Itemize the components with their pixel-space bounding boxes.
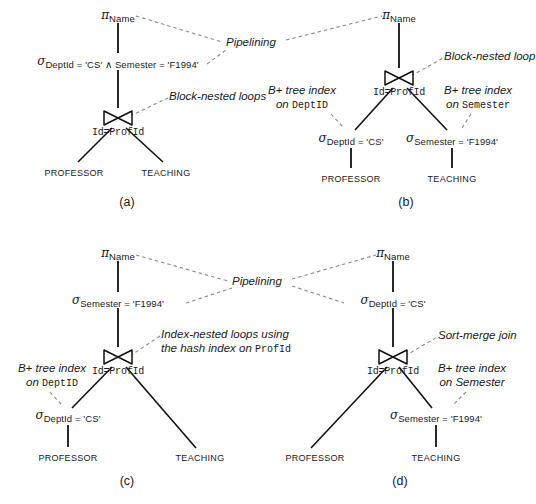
- panel-b-right-select-subscript: Semester = 'F1994': [414, 136, 498, 147]
- panel-d-right-index-annotation: B+ tree index on Semester: [438, 362, 506, 389]
- panel-d-select-top-node: σDeptId = 'CS': [360, 294, 425, 306]
- sigma-symbol: σ: [318, 131, 326, 145]
- pi-symbol: π: [101, 246, 109, 260]
- query-plan-figure: πName σDeptId = 'CS' ∧ Semester = 'F1994…: [0, 0, 536, 504]
- panel-d-right-select-node: σSemester = 'F1994': [390, 409, 482, 421]
- panel-b-right-index-line1: B+ tree index: [444, 84, 512, 98]
- panel-c-select-top-node: σSemester = 'F1994': [72, 294, 164, 306]
- panel-b-join-annotation: Block-nested loops: [444, 50, 532, 64]
- pi-symbol: π: [101, 8, 109, 22]
- panel-d-join-predicate: Id=ProfId: [367, 367, 419, 377]
- panel-b-left-select-node: σDeptId = 'CS': [318, 132, 383, 144]
- join-symbol-b: [385, 71, 413, 85]
- panel-b-left-index-line2: on DeptID: [268, 98, 336, 113]
- panel-b-left-index-annotation: B+ tree index on DeptID: [268, 84, 336, 112]
- panel-b-right-index-column: Semester: [462, 100, 510, 111]
- panel-c-left-select-node: σDeptId = 'CS': [35, 409, 100, 421]
- panel-d-project-subscript: Name: [384, 251, 410, 262]
- plan-edges: [0, 0, 536, 504]
- panel-b-right-index-line2: on Semester: [444, 98, 512, 113]
- panel-d-select-top-subscript: DeptId = 'CS': [369, 298, 426, 309]
- panel-c-select-top-subscript: Semester = 'F1994': [80, 298, 164, 309]
- panel-d-right-relation: TEACHING: [412, 451, 461, 464]
- sigma-symbol: σ: [35, 408, 43, 422]
- panel-c-join-annotation-column: ProfId: [255, 344, 291, 355]
- pipelining-annotation-top: Pipelining: [226, 36, 276, 50]
- sigma-symbol: σ: [360, 293, 368, 307]
- panel-c-join-annotation: Index-nested loops using the hash index …: [161, 328, 291, 356]
- panel-d-left-relation: PROFESSOR: [285, 451, 344, 464]
- panel-d-right-index-line2: on Semester: [438, 376, 506, 390]
- panel-c-join-predicate: Id=ProfId: [92, 367, 144, 377]
- panel-c-project-subscript: Name: [109, 251, 135, 262]
- panel-a-join-annotation: Block-nested loops: [169, 90, 255, 104]
- panel-c-left-index-column: DeptID: [42, 378, 78, 389]
- panel-c-left-index-line1: B+ tree index: [18, 362, 86, 376]
- panel-c-left-relation: PROFESSOR: [38, 451, 97, 464]
- panel-c-join-annotation-line1: Index-nested loops using: [161, 328, 291, 342]
- panel-b-left-index-prefix: on: [276, 98, 292, 110]
- panel-b-caption: (b): [398, 196, 413, 209]
- panel-b-left-index-column: DeptID: [292, 100, 328, 111]
- sigma-symbol: σ: [390, 408, 398, 422]
- join-symbol-c: [104, 350, 132, 364]
- panel-a-left-relation: PROFESSOR: [44, 166, 103, 179]
- sigma-symbol: σ: [72, 293, 80, 307]
- panel-a-select-subscript: DeptId = 'CS' ∧ Semester = 'F1994': [45, 59, 198, 70]
- panel-c-left-index-prefix: on: [26, 376, 42, 388]
- panel-a-join-predicate: Id=ProfId: [92, 128, 144, 138]
- panel-b-project-subscript: Name: [390, 13, 416, 24]
- panel-c-join-annotation-line2: the hash index on ProfId: [161, 342, 291, 357]
- panel-b-project-node: πName: [382, 9, 416, 21]
- panel-d-project-node: πName: [376, 247, 410, 259]
- panel-b-left-select-subscript: DeptId = 'CS': [327, 136, 384, 147]
- panel-a-project-subscript: Name: [109, 13, 135, 24]
- panel-d-caption: (d): [392, 475, 407, 488]
- panel-c-project-node: πName: [101, 247, 135, 259]
- panel-b-join-predicate: Id=ProfId: [373, 88, 425, 98]
- panel-c-join-annotation-prefix: the hash index on: [161, 342, 255, 354]
- panel-d-join-annotation: Sort-merge join: [438, 329, 517, 343]
- panel-a-select-node: σDeptId = 'CS' ∧ Semester = 'F1994': [37, 55, 199, 67]
- join-symbol-d: [379, 350, 407, 364]
- panel-c-left-select-subscript: DeptId = 'CS': [44, 413, 101, 424]
- sigma-symbol: σ: [406, 131, 414, 145]
- panel-b-left-index-line1: B+ tree index: [268, 84, 336, 98]
- panel-a-caption: (a): [119, 196, 134, 209]
- panel-c-left-index-annotation: B+ tree index on DeptID: [18, 362, 86, 390]
- panel-b-right-index-prefix: on: [446, 98, 462, 110]
- join-symbol-a: [104, 111, 132, 125]
- panel-c-left-index-line2: on DeptID: [18, 376, 86, 391]
- panel-a-right-relation: TEACHING: [142, 166, 191, 179]
- panel-d-right-index-line1: B+ tree index: [438, 362, 506, 376]
- panel-d-right-select-subscript: Semester = 'F1994': [398, 413, 482, 424]
- panel-c-caption: (c): [120, 475, 135, 488]
- panel-b-right-index-annotation: B+ tree index on Semester: [444, 84, 512, 112]
- panel-b-left-relation: PROFESSOR: [321, 172, 380, 185]
- pipelining-annotation-bottom: Pipelining: [232, 275, 282, 289]
- panel-b-right-relation: TEACHING: [428, 172, 477, 185]
- pi-symbol: π: [382, 8, 390, 22]
- panel-a-project-node: πName: [101, 9, 135, 21]
- pi-symbol: π: [376, 246, 384, 260]
- panel-b-right-select-node: σSemester = 'F1994': [406, 132, 498, 144]
- panel-c-right-relation: TEACHING: [176, 451, 225, 464]
- sigma-symbol: σ: [37, 54, 45, 68]
